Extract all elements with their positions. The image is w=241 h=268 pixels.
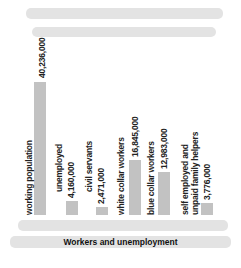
baseline-band xyxy=(18,220,228,231)
bar-white-collar xyxy=(129,160,141,215)
category-label-5b: unpaid family helpers xyxy=(190,132,200,215)
category-label-4: blue collar workers xyxy=(146,141,156,215)
bar-unemployed xyxy=(66,201,78,215)
bar-working-population xyxy=(34,82,46,215)
category-label-5a: self employed and xyxy=(180,144,190,215)
value-label-4: 12,983,000 xyxy=(159,128,169,169)
bar-blue-collar xyxy=(158,172,170,215)
header-band-1 xyxy=(26,8,223,19)
value-label-0: 40,236,000 xyxy=(37,37,47,78)
header-band-2 xyxy=(32,27,216,37)
value-label-3: 16,845,000 xyxy=(130,116,140,157)
category-label-3: white collar workers xyxy=(116,137,126,215)
value-label-2: 2,471,000 xyxy=(96,168,106,204)
value-label-5: 3,776,000 xyxy=(202,164,212,200)
bar-civil-servants xyxy=(96,207,108,215)
category-label-0: working population xyxy=(24,140,34,215)
chart-title: Workers and unemployment xyxy=(10,236,231,248)
value-label-1: 4,160,000 xyxy=(66,162,76,198)
category-label-2: civil servants xyxy=(84,141,94,192)
category-label-1: unemployed xyxy=(54,144,64,192)
bar-self-employed xyxy=(201,203,213,215)
